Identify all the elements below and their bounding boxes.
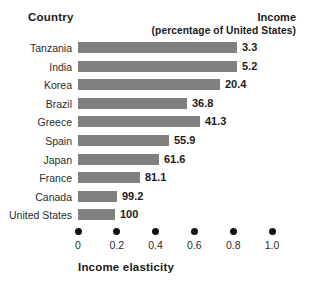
bar-value-label: 20.4: [225, 78, 246, 90]
bar-value-label: 55.9: [174, 134, 195, 146]
bar: [78, 135, 169, 146]
column-header-country: Country: [28, 11, 73, 23]
x-axis-tick-label: 0.4: [144, 239, 168, 251]
table-row: Korea20.4: [0, 77, 310, 95]
x-axis-tick: 0: [66, 228, 90, 251]
x-axis-tick-label: 1.0: [260, 239, 284, 251]
row-label-country: India: [0, 61, 72, 73]
row-label-country: Korea: [0, 79, 72, 91]
row-label-country: France: [0, 172, 72, 184]
x-axis-tick: 0.6: [182, 228, 206, 251]
bar: [78, 79, 220, 90]
row-label-country: Greece: [0, 116, 72, 128]
row-label-country: Canada: [0, 191, 72, 203]
x-axis-tick-label: 0.6: [182, 239, 206, 251]
column-header-income-subtitle: (percentage of United States): [152, 24, 296, 37]
tick-dot-icon: [113, 228, 120, 235]
table-row: Brazil36.8: [0, 96, 310, 114]
table-row: Tanzania3.3: [0, 40, 310, 58]
table-row: Greece41.3: [0, 114, 310, 132]
bar: [78, 98, 187, 109]
bar-value-label: 36.8: [192, 97, 213, 109]
tick-dot-icon: [152, 228, 159, 235]
x-axis-tick-label: 0: [66, 239, 90, 251]
x-axis-tick: 1.0: [260, 228, 284, 251]
column-header-income-title: Income: [257, 11, 296, 23]
column-header-income: Income (percentage of United States): [152, 11, 296, 37]
x-axis-tick: 0.8: [221, 228, 245, 251]
x-axis-title: Income elasticity: [78, 261, 174, 273]
bar-value-label: 61.6: [164, 153, 185, 165]
bar: [78, 61, 237, 72]
row-label-country: Japan: [0, 154, 72, 166]
bar: [78, 154, 159, 165]
bar: [78, 191, 117, 202]
table-row: United States100: [0, 207, 310, 225]
bar: [78, 116, 200, 127]
x-axis-tick: 0.4: [144, 228, 168, 251]
row-label-country: Spain: [0, 135, 72, 147]
tick-dot-icon: [230, 228, 237, 235]
row-label-country: Brazil: [0, 98, 72, 110]
bar-value-label: 3.3: [242, 41, 257, 53]
bar: [78, 42, 237, 53]
bar-value-label: 100: [120, 208, 138, 220]
bar-value-label: 99.2: [122, 190, 143, 202]
plot-area: Tanzania3.3India5.2Korea20.4Brazil36.8Gr…: [0, 40, 310, 225]
bar-value-label: 5.2: [242, 60, 257, 72]
x-axis-tick: 0.2: [105, 228, 129, 251]
tick-dot-icon: [269, 228, 276, 235]
income-elasticity-chart: Country Income (percentage of United Sta…: [0, 0, 310, 285]
table-row: Spain55.9: [0, 133, 310, 151]
table-row: Canada99.2: [0, 189, 310, 207]
table-row: France81.1: [0, 170, 310, 188]
x-axis-tick-label: 0.2: [105, 239, 129, 251]
tick-dot-icon: [191, 228, 198, 235]
tick-dot-icon: [75, 228, 82, 235]
row-label-country: Tanzania: [0, 42, 72, 54]
table-row: Japan61.6: [0, 152, 310, 170]
x-axis-tick-label: 0.8: [221, 239, 245, 251]
bar-value-label: 41.3: [205, 115, 226, 127]
x-axis: 00.20.40.60.81.0: [0, 228, 310, 258]
table-row: India5.2: [0, 59, 310, 77]
bar-value-label: 81.1: [145, 171, 166, 183]
row-label-country: United States: [0, 209, 72, 221]
bar: [78, 172, 140, 183]
bar: [78, 209, 115, 220]
